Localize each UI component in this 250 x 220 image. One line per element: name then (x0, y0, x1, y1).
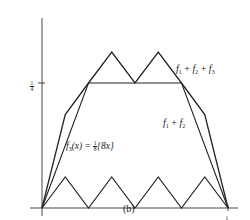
label-f3-definition: f3(x) = 18{8x} (66, 141, 114, 152)
frac-numerator: 1 (225, 216, 229, 220)
label-f1-f2-f3: f1 + f2 + f3 (176, 64, 215, 75)
figure-caption: (b) (123, 204, 135, 214)
frac-denominator: 4 (31, 87, 34, 92)
label-part: (x) = (72, 141, 94, 151)
diagram-canvas (0, 0, 250, 220)
curve-f3 (42, 177, 228, 208)
x-tick-label: 12 (225, 212, 229, 220)
y-tick-label: 14 (30, 77, 34, 93)
curve-f1-plus-f2-plus-f3 (42, 52, 228, 208)
label-part: 3 (212, 69, 215, 75)
label-part: {8x} (97, 141, 114, 151)
label-part: + (182, 63, 193, 74)
label-part: + (198, 63, 209, 74)
label-f1-f2: f1 + f2 (163, 118, 185, 129)
label-part: 2 (182, 123, 185, 129)
label-part: + (169, 117, 180, 128)
